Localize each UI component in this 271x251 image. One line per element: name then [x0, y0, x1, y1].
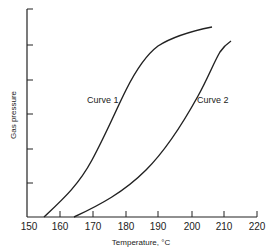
x-tick-label: 160: [52, 221, 69, 232]
x-tick-label: 170: [85, 221, 102, 232]
x-tick-label: 210: [216, 221, 233, 232]
x-tick-labels: 150 160 170 180 190 200 210 220: [21, 221, 266, 232]
x-tick-label: 220: [249, 221, 266, 232]
x-tick-label: 200: [184, 221, 201, 232]
curve-1: [44, 27, 212, 217]
x-ticks: [60, 211, 257, 217]
curve-1-label: Curve 1: [87, 95, 119, 105]
x-tick-label: 150: [21, 221, 38, 232]
x-tick-label: 190: [150, 221, 167, 232]
curve-2: [74, 41, 231, 217]
curve-2-label: Curve 2: [197, 95, 229, 105]
y-ticks: [27, 9, 33, 183]
x-axis-label: Temperature, °C: [112, 238, 171, 247]
x-tick-label: 180: [118, 221, 135, 232]
chart: 150 160 170 180 190 200 210 220 Temperat…: [0, 0, 271, 251]
y-axis-label: Gas pressure: [9, 90, 18, 139]
